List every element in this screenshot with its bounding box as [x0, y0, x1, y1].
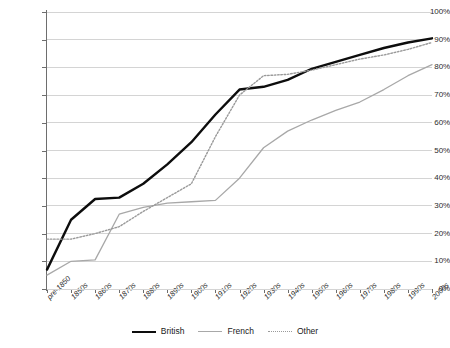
legend-swatch-icon	[268, 331, 292, 332]
chart-legend: BritishFrenchOther	[0, 327, 450, 336]
legend-label: Other	[297, 327, 318, 336]
line-chart: 100%90%80%70%60%50%40%30%20%10%0% pre-18…	[0, 0, 450, 348]
series-line-other	[47, 42, 432, 239]
series-line-british	[47, 38, 432, 269]
legend-item-british[interactable]: British	[132, 327, 185, 336]
legend-item-french[interactable]: French	[198, 327, 253, 336]
legend-label: French	[227, 327, 253, 336]
legend-swatch-icon	[198, 331, 222, 332]
series-lines	[47, 12, 432, 289]
legend-item-other[interactable]: Other	[268, 327, 318, 336]
plot-area	[47, 12, 432, 289]
legend-swatch-icon	[132, 331, 156, 333]
legend-label: British	[161, 327, 185, 336]
